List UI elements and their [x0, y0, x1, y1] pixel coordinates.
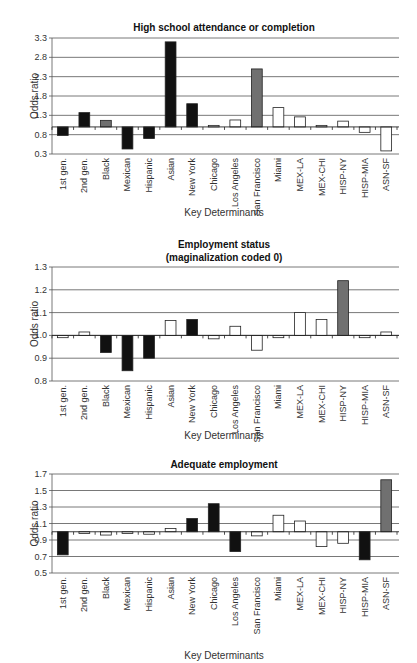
x-category-label: 1st gen.: [58, 158, 68, 190]
bar-hispanic: [144, 335, 155, 358]
bar-1st-gen-: [57, 127, 68, 136]
x-category-label: Hispanic: [144, 158, 154, 193]
y-tick-label: 2.8: [34, 52, 47, 62]
bar-new-york: [187, 319, 198, 335]
bar-los-angeles: [230, 532, 241, 552]
bar-new-york: [187, 519, 198, 532]
bar-chicago: [208, 335, 219, 338]
bar-mex-la: [295, 521, 306, 532]
bar-los-angeles: [230, 120, 241, 127]
bar-asian: [165, 42, 176, 127]
x-category-label: Chicago: [209, 158, 219, 191]
x-category-label: MEX-LA: [295, 577, 305, 611]
bar-asian: [165, 321, 176, 336]
chart-high-school: High school attendance or completion0.30…: [0, 0, 417, 221]
x-category-label: Los Angeles: [230, 385, 240, 435]
x-category-label: Miami: [273, 158, 283, 182]
y-axis-label: Odds ratio: [29, 72, 40, 119]
x-axis-label: Key Determinants: [184, 650, 263, 661]
bar-hisp-ny: [338, 121, 349, 127]
x-category-label: Miami: [273, 385, 283, 409]
chart-employment-status: Employment status(maginalization coded 0…: [0, 221, 417, 443]
bar-2nd-gen-: [79, 113, 90, 127]
y-tick-label: 0.8: [34, 376, 47, 386]
bar-2nd-gen-: [79, 332, 90, 335]
x-category-label: 2nd gen.: [79, 577, 89, 612]
chart-title: Employment status: [178, 239, 271, 250]
bar-hisp-mia: [359, 532, 370, 560]
y-tick-label: 1.7: [34, 469, 47, 479]
x-category-label: Los Angeles: [230, 577, 240, 627]
x-category-label: Asian: [166, 158, 176, 181]
y-tick-label: 0.3: [34, 149, 47, 159]
bar-hispanic: [144, 127, 155, 139]
x-category-label: HISP-MIA: [360, 158, 370, 198]
bar-black: [101, 532, 112, 535]
y-tick-label: 0.8: [34, 130, 47, 140]
x-category-label: 1st gen.: [58, 577, 68, 609]
x-category-label: Black: [101, 385, 111, 408]
x-category-label: HISP-NY: [338, 577, 348, 614]
y-tick-label: 1.5: [34, 486, 47, 496]
x-category-label: MEX-CHI: [317, 577, 327, 615]
x-axis-label: Key Determinants: [184, 430, 263, 441]
x-category-label: Mexican: [122, 385, 132, 419]
bar-hisp-ny: [338, 281, 349, 336]
bar-black: [101, 120, 112, 127]
x-category-label: New York: [187, 158, 197, 197]
y-tick-label: 3.3: [34, 33, 47, 43]
x-category-label: Los Angeles: [230, 158, 240, 208]
x-category-label: 1st gen.: [58, 385, 68, 417]
bar-black: [101, 335, 112, 352]
chart-title: High school attendance or completion: [133, 22, 315, 33]
y-axis-label: Odds ratio: [29, 500, 40, 547]
x-category-label: HISP-MIA: [360, 577, 370, 617]
bar-mex-chi: [316, 319, 327, 335]
y-tick-label: 1.2: [34, 285, 47, 295]
x-category-label: Chicago: [209, 385, 219, 418]
bar-mex-chi: [316, 532, 327, 547]
bar-asn-sf: [381, 480, 392, 532]
x-category-label: MEX-CHI: [317, 158, 327, 196]
bar-mex-la: [295, 117, 306, 127]
bar-miami: [273, 108, 284, 127]
x-category-label: ASN-SF: [381, 385, 391, 419]
x-category-label: MEX-CHI: [317, 385, 327, 423]
x-category-label: MEX-LA: [295, 385, 305, 419]
chart-title: Adequate employment: [170, 459, 278, 470]
bar-asn-sf: [381, 127, 392, 151]
x-axis-label: Key Determinants: [184, 207, 263, 218]
bar-mexican: [122, 335, 133, 370]
x-category-label: Black: [101, 577, 111, 600]
y-tick-label: 0.5: [34, 568, 47, 578]
bar-san-francisco: [251, 532, 262, 536]
x-category-label: Mexican: [122, 158, 132, 192]
x-category-label: Miami: [273, 577, 283, 601]
x-category-label: ASN-SF: [381, 577, 391, 611]
x-category-label: New York: [187, 385, 197, 424]
chart-subtitle: (maginalization coded 0): [166, 252, 283, 263]
x-category-label: Black: [101, 158, 111, 181]
x-category-label: Hispanic: [144, 577, 154, 612]
x-category-label: Mexican: [122, 577, 132, 611]
x-category-label: HISP-NY: [338, 158, 348, 195]
y-tick-label: 0.7: [34, 552, 47, 562]
bar-chicago: [208, 504, 219, 532]
x-category-label: New York: [187, 577, 197, 616]
bar-miami: [273, 515, 284, 532]
y-tick-label: 0.9: [34, 353, 47, 363]
bar-mexican: [122, 127, 133, 149]
bar-hisp-ny: [338, 532, 349, 544]
x-category-label: Hispanic: [144, 385, 154, 420]
bar-new-york: [187, 104, 198, 127]
bar-1st-gen-: [57, 532, 68, 555]
x-category-label: San Francisco: [252, 577, 262, 635]
x-category-label: 2nd gen.: [79, 385, 89, 420]
bar-san-francisco: [251, 335, 262, 350]
x-category-label: Asian: [166, 385, 176, 408]
x-category-label: HISP-MIA: [360, 385, 370, 425]
y-axis-label: Odds ratio: [29, 300, 40, 347]
chart-adequate-employment: Adequate employment0.50.70.91.11.31.51.7…: [0, 443, 417, 663]
x-category-label: MEX-LA: [295, 158, 305, 192]
x-category-label: HISP-NY: [338, 385, 348, 422]
